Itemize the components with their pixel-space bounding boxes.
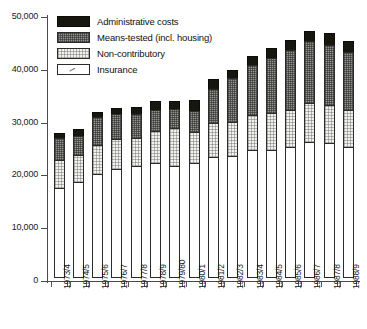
legend-item-means-tested[interactable]: Means-tested (incl. housing) [57,30,212,45]
y-axis-tick-label: 20,000 [12,170,38,179]
legend-item-insurance[interactable]: Insurance [57,62,212,77]
bar-segment-non-contributory [227,122,238,157]
x-axis-tick [51,282,52,287]
legend-item-administrative-costs[interactable]: Administrative costs [57,14,212,29]
y-axis-tick [41,123,47,124]
bar-segment-insurance [285,147,296,278]
x-axis-label: 1982/3 [236,264,245,289]
y-axis-tick-label: 30,000 [12,118,38,127]
bar-segment-insurance [227,156,238,278]
bar-1988-9[interactable] [343,41,354,281]
bar-segment-means-tested-incl-housing [111,114,122,139]
legend-item-non-contributory[interactable]: Non-contributory [57,46,212,61]
bar-1983-4[interactable] [247,56,258,281]
bar-segment-non-contributory [150,131,161,164]
x-axis-label: 1986/7 [313,264,322,289]
bar-segment-non-contributory [73,155,84,183]
bar-1986-7[interactable] [304,31,315,281]
bar-1976-7[interactable] [111,108,122,281]
bar-segment-means-tested-incl-housing [131,114,142,139]
legend-item-label: Means-tested (incl. housing) [97,33,212,43]
x-axis-label: 1985/6 [294,264,303,289]
bar-segment-non-contributory [189,132,200,165]
x-axis-label: 1988/9 [352,264,361,289]
light-dotted-swatch-icon [57,48,90,59]
x-axis-label: 1979/80 [178,260,187,289]
bar-segment-insurance [150,163,161,278]
y-axis-tick [41,175,47,176]
x-axis-label: 1978/9 [159,264,168,289]
white-swatch-icon [57,64,90,75]
bar-segment-means-tested-incl-housing [227,78,238,122]
bar-segment-insurance [324,143,335,278]
x-axis-label: 1973/4 [63,264,72,289]
y-axis-tick [41,281,47,282]
legend-item-label: Administrative costs [97,17,178,27]
x-axis-label: 1987/8 [333,264,342,289]
stacked-bar-chart: 010,00020,00030,00040,00050,000 1973/419… [0,0,367,329]
bar-segment-non-contributory [54,160,65,189]
bar-1982-3[interactable] [227,70,238,281]
x-axis-label: 1974/5 [82,264,91,289]
bar-1985-6[interactable] [285,40,296,281]
bar-segment-insurance [266,150,277,278]
bar-segment-non-contributory [343,110,354,148]
bar-segment-means-tested-incl-housing [150,110,161,132]
bar-segment-non-contributory [247,115,258,151]
bar-segment-insurance [208,157,219,278]
bar-segment-means-tested-incl-housing [169,109,180,129]
bar-segment-non-contributory [131,138,142,167]
bar-segment-means-tested-incl-housing [266,58,277,114]
bar-1984-5[interactable] [266,48,277,281]
legend-item-label: Insurance [97,65,137,75]
bar-segment-means-tested-incl-housing [54,138,65,161]
x-axis-label: 1975/6 [101,264,110,289]
x-axis-label: 1981/2 [217,264,226,289]
bar-segment-means-tested-incl-housing [189,111,200,133]
y-axis-tick [41,228,47,229]
bar-segment-means-tested-incl-housing [208,89,219,124]
y-axis-tick [41,70,47,71]
bar-1979-80[interactable] [169,101,180,281]
black-solid-swatch-icon [57,16,90,27]
bar-segment-non-contributory [111,139,122,170]
legend-item-label: Non-contributory [97,49,165,59]
bar-segment-non-contributory [266,113,277,151]
bar-segment-means-tested-incl-housing [285,50,296,111]
x-axis-label: 1977/8 [140,264,149,289]
y-axis-tick-label: 50,000 [12,12,38,21]
bar-segment-insurance [131,166,142,278]
bar-1978-9[interactable] [150,101,161,281]
x-axis-label: 1984/5 [275,264,284,289]
bar-segment-non-contributory [324,105,335,145]
bar-1981-2[interactable] [208,79,219,281]
bar-segment-means-tested-incl-housing [73,136,84,156]
bar-segment-means-tested-incl-housing [247,65,258,117]
y-axis-tick-label: 0 [33,276,38,285]
bar-1974-5[interactable] [73,129,84,281]
dark-checker-swatch-icon [57,32,90,43]
bar-segment-non-contributory [285,110,296,148]
bar-segment-insurance [343,147,354,278]
x-axis-label: 1980/1 [198,264,207,289]
bar-segment-insurance [247,150,258,278]
bar-segment-insurance [189,163,200,278]
y-axis-tick-label: 10,000 [12,223,38,232]
bar-segment-means-tested-incl-housing [304,41,315,104]
bar-1987-8[interactable] [324,33,335,281]
bar-segment-non-contributory [208,123,219,157]
x-axis-label: 1983/4 [256,264,265,289]
y-axis-tick [41,17,47,18]
y-axis-tick-label: 40,000 [12,65,38,74]
bar-1980-1[interactable] [189,100,200,281]
bar-segment-non-contributory [304,103,315,143]
chart-legend: Administrative costs Means-tested (incl.… [57,14,212,78]
bar-1975-6[interactable] [92,112,103,281]
bar-1977-8[interactable] [131,107,142,281]
bar-segment-non-contributory [92,145,103,175]
bar-segment-means-tested-incl-housing [343,52,354,111]
bar-segment-insurance [304,142,315,278]
bar-1973-4[interactable] [54,133,65,281]
x-axis-label: 1976/7 [120,264,129,289]
bar-segment-means-tested-incl-housing [324,45,335,106]
